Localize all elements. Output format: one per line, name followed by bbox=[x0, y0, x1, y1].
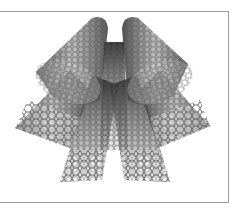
upper-left-tube bbox=[29, 17, 108, 112]
nanotube-illustration bbox=[0, 0, 234, 209]
upper-right-tube bbox=[121, 17, 199, 112]
